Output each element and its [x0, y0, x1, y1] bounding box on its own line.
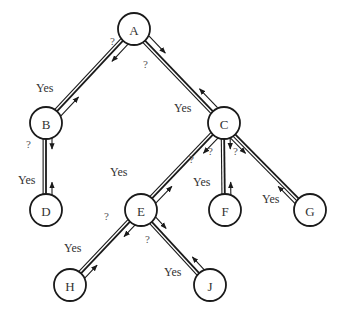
- node-label: D: [41, 204, 50, 219]
- node-label: C: [220, 117, 229, 132]
- query-label: ?: [145, 233, 150, 245]
- reply-label: Yes: [64, 241, 82, 255]
- query-label: ?: [208, 145, 213, 157]
- edge-line: [81, 222, 130, 274]
- query-label: ?: [26, 138, 31, 150]
- edge-line: [235, 134, 299, 198]
- node-g: G: [294, 194, 326, 226]
- reply-label: Yes: [164, 265, 182, 279]
- edge-a-b: [55, 39, 128, 116]
- reply-arrow-icon: [278, 186, 295, 203]
- node-label: A: [129, 23, 139, 38]
- node-h: H: [54, 269, 86, 301]
- nodes-layer: ABCDEFGHJ: [30, 13, 326, 301]
- tree-diagram: ?Yes?Yes?Yes?Yes?Yes?Yes?Yes?Yes ABCDEFG…: [0, 0, 342, 317]
- reply-label: Yes: [262, 192, 280, 206]
- node-label: F: [221, 204, 228, 219]
- edge-line: [224, 139, 225, 194]
- node-a: A: [118, 13, 150, 45]
- edge-c-f: [221, 133, 231, 199]
- edge-line: [57, 41, 123, 112]
- node-label: B: [42, 117, 51, 132]
- edge-b-d: [43, 133, 52, 199]
- query-label: ?: [110, 35, 115, 47]
- edge-rail: [233, 136, 297, 200]
- node-f: F: [209, 194, 241, 226]
- reply-label: Yes: [18, 173, 36, 187]
- node-label: E: [137, 204, 145, 219]
- reply-label: Yes: [36, 81, 54, 95]
- node-label: G: [305, 204, 314, 219]
- reply-label: Yes: [193, 175, 211, 189]
- edge-rail: [55, 39, 121, 110]
- node-c: C: [208, 107, 240, 139]
- node-label: H: [65, 279, 74, 294]
- query-label: ?: [189, 153, 194, 165]
- reply-label: Yes: [174, 101, 192, 115]
- node-e: E: [125, 194, 157, 226]
- query-arrow-icon: [149, 36, 165, 53]
- node-d: D: [30, 194, 62, 226]
- edge-labels-layer: ?Yes?Yes?Yes?Yes?Yes?Yes?Yes?Yes: [18, 35, 280, 279]
- query-label: ?: [104, 210, 109, 222]
- edge-c-e: [150, 133, 218, 204]
- node-j: J: [194, 269, 226, 301]
- edge-rail: [79, 220, 128, 272]
- query-label: ?: [233, 145, 238, 157]
- edge-e-h: [79, 220, 137, 280]
- node-b: B: [30, 107, 62, 139]
- reply-label: Yes: [110, 165, 128, 179]
- node-label: J: [207, 279, 212, 294]
- query-label: ?: [143, 58, 148, 70]
- edge-rail: [221, 139, 222, 194]
